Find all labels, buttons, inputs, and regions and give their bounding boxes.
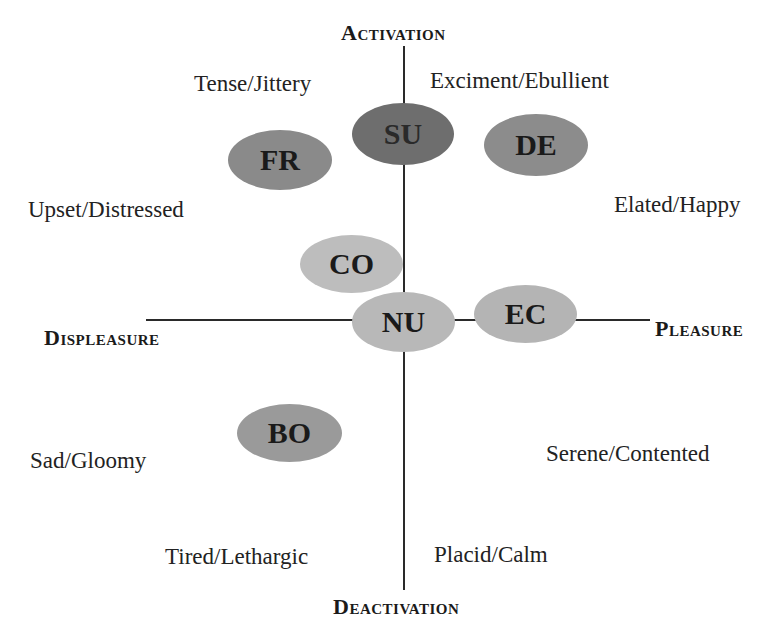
node-fr-label: FR	[260, 143, 300, 177]
label-tense-jittery: Tense/Jittery	[194, 71, 311, 97]
label-placid-calm: Placid/Calm	[434, 542, 548, 568]
axis-label-pleasure: Pleasure	[655, 316, 743, 342]
node-de-label: DE	[515, 128, 557, 162]
axis-label-activation: Activation	[341, 20, 446, 46]
node-su-label: SU	[384, 117, 422, 151]
label-tired-lethargic: Tired/Lethargic	[165, 544, 308, 570]
node-fr: FR	[228, 130, 332, 190]
node-bo: BO	[237, 404, 342, 462]
label-elated-happy: Elated/Happy	[614, 192, 740, 218]
node-nu-label: NU	[382, 305, 425, 339]
node-co-label: CO	[329, 247, 374, 281]
label-upset-distressed: Upset/Distressed	[28, 197, 184, 223]
axis-label-deactivation: Deactivation	[333, 594, 459, 620]
node-de: DE	[484, 114, 588, 176]
node-ec: EC	[474, 285, 577, 343]
label-serene-contented: Serene/Contented	[546, 441, 710, 467]
node-co: CO	[300, 235, 403, 293]
label-sad-gloomy: Sad/Gloomy	[30, 448, 146, 474]
node-ec-label: EC	[505, 297, 547, 331]
label-excitement-ebullient: Exciment/Ebullient	[430, 68, 609, 94]
node-su: SU	[352, 103, 454, 165]
axis-label-displeasure: Displeasure	[44, 325, 160, 351]
node-bo-label: BO	[268, 416, 311, 450]
node-nu: NU	[352, 292, 455, 352]
